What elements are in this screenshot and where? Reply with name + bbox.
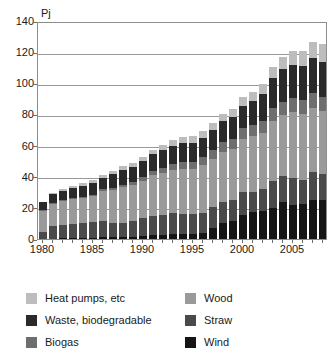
bar-segment xyxy=(299,51,306,66)
bar-segment xyxy=(229,117,236,139)
legend-column-left: Heat pumps, etcWaste, biodegradableBioga… xyxy=(26,287,196,353)
bar-segment xyxy=(69,224,76,238)
bar-segment xyxy=(129,185,136,221)
bar-segment xyxy=(189,214,196,233)
bar-segment xyxy=(299,66,306,100)
bar-segment xyxy=(279,176,286,202)
bar-segment xyxy=(209,228,216,239)
legend-item[interactable]: Biogas xyxy=(26,331,196,353)
bar-segment xyxy=(219,152,226,202)
bar-1989 xyxy=(129,163,136,239)
bar-segment xyxy=(259,84,266,94)
bar-segment xyxy=(249,125,256,137)
legend-item[interactable]: Wood xyxy=(185,287,325,309)
bar-segment xyxy=(199,233,206,239)
bar-2002 xyxy=(259,84,266,239)
bar-segment xyxy=(199,165,206,213)
bar-segment xyxy=(169,234,176,239)
bar-segment xyxy=(59,238,66,239)
bar-segment xyxy=(289,65,296,98)
bar-segment xyxy=(249,136,256,191)
bar-segment xyxy=(269,108,276,121)
bar-segment xyxy=(169,146,176,165)
bar-segment xyxy=(119,170,126,185)
bar-segment xyxy=(199,138,206,157)
bar-segment xyxy=(139,181,146,218)
bar-segment xyxy=(159,173,166,215)
bar-segment xyxy=(159,215,166,235)
bar-segment xyxy=(239,139,246,192)
bar-2007 xyxy=(309,42,316,239)
bar-segment xyxy=(69,199,76,224)
bar-segment xyxy=(199,157,206,165)
bar-segment xyxy=(219,142,226,151)
bar-1987 xyxy=(109,171,116,239)
bar-segment xyxy=(159,150,166,168)
bar-segment xyxy=(79,198,86,224)
bar-segment xyxy=(309,58,316,93)
bar-segment xyxy=(319,111,326,173)
bar-segment xyxy=(149,216,156,235)
bar-1988 xyxy=(119,166,126,239)
bar-segment xyxy=(299,180,306,204)
bar-2003 xyxy=(269,67,276,239)
bar-1999 xyxy=(229,109,236,239)
legend-item[interactable]: Heat pumps, etc xyxy=(26,287,196,309)
bar-segment xyxy=(319,200,326,239)
bar-segment xyxy=(109,237,116,239)
bar-segment xyxy=(239,192,246,215)
bar-segment xyxy=(139,161,146,177)
bar-1982 xyxy=(59,189,66,239)
bar-1993 xyxy=(169,140,176,239)
bar-segment xyxy=(69,188,76,198)
legend-item[interactable]: Wind xyxy=(185,331,325,353)
bar-segment xyxy=(289,178,296,205)
bar-segment xyxy=(179,234,186,239)
legend-item[interactable]: Waste, biodegradable xyxy=(26,309,196,331)
bar-segment xyxy=(109,190,116,223)
bar-segment xyxy=(169,170,176,214)
bar-segment xyxy=(189,143,196,162)
bar-segment xyxy=(309,172,316,200)
bar-segment xyxy=(279,115,286,176)
bar-segment xyxy=(239,106,246,129)
bar-segment xyxy=(319,62,326,97)
bar-segment xyxy=(269,208,276,239)
bar-segment xyxy=(319,44,326,62)
bar-segment xyxy=(69,238,76,239)
bar-segment xyxy=(209,207,216,228)
bar-segment xyxy=(59,225,66,238)
bar-segment xyxy=(189,234,196,239)
x-axis-tick-label: 1990 xyxy=(130,243,154,255)
bar-segment xyxy=(299,100,306,114)
bar-segment xyxy=(299,204,306,239)
bar-1981 xyxy=(49,193,56,239)
bar-1986 xyxy=(99,175,106,239)
y-axis-tick-marks xyxy=(0,22,37,240)
bar-segment xyxy=(119,237,126,239)
bar-segment xyxy=(139,218,146,236)
bar-segment xyxy=(289,98,296,112)
bar-2004 xyxy=(279,57,286,239)
bar-1994 xyxy=(179,137,186,239)
bar-1984 xyxy=(79,183,86,239)
bar-segment xyxy=(289,51,296,64)
bar-1980 xyxy=(39,202,46,239)
bar-segment xyxy=(129,237,136,239)
bar-segment xyxy=(229,109,236,117)
legend-item-label: Waste, biodegradable xyxy=(45,314,152,326)
bar-segment xyxy=(39,211,46,233)
bar-segment xyxy=(209,159,216,207)
bar-segment xyxy=(259,211,266,239)
bar-segment xyxy=(79,238,86,239)
bar-2008 xyxy=(319,44,326,239)
bar-segment xyxy=(309,42,316,58)
legend-item[interactable]: Straw xyxy=(185,309,325,331)
bar-segment xyxy=(199,213,206,233)
bar-segment xyxy=(119,187,126,223)
bar-segment xyxy=(89,238,96,239)
legend-swatch-icon xyxy=(26,315,37,326)
bar-segment xyxy=(279,57,286,69)
bar-segment xyxy=(229,149,236,200)
legend-swatch-icon xyxy=(185,315,196,326)
